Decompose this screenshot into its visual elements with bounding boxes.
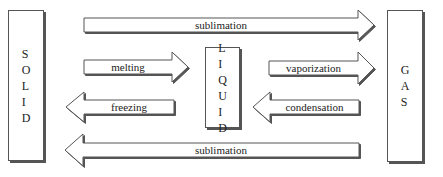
state-box-solid: SOLID [8,10,44,161]
phase-change-diagram: SOLID LIQUID GAS sublimation melting vap… [0,0,443,177]
state-letter: U [218,88,227,104]
state-letter: S [22,46,31,62]
state-box-gas: GAS [387,10,423,162]
state-letter: D [218,120,227,136]
state-label-liquid: LIQUID [218,40,227,136]
state-letter: I [22,94,31,110]
state-letter: I [218,104,227,120]
arrow-label-condensation: condensation [270,100,359,114]
state-label-solid: SOLID [22,46,31,126]
state-letter: O [22,62,31,78]
state-letter: L [22,78,31,94]
arrow-label-melting: melting [84,60,172,74]
arrow-label-freezing: freezing [84,100,174,114]
state-letter: D [22,110,31,126]
state-letter: Q [218,72,227,88]
state-letter: I [218,56,227,72]
state-letter: A [401,78,410,94]
state-box-liquid: LIQUID [205,47,240,128]
state-letter: G [401,62,410,78]
arrow-label-vaporization: vaporization [269,61,358,75]
state-letter: S [401,94,410,110]
state-label-gas: GAS [401,62,410,110]
arrow-label-sublimation-bottom: sublimation [83,143,359,157]
state-letter: L [218,40,227,56]
arrow-label-sublimation-top: sublimation [84,18,358,32]
